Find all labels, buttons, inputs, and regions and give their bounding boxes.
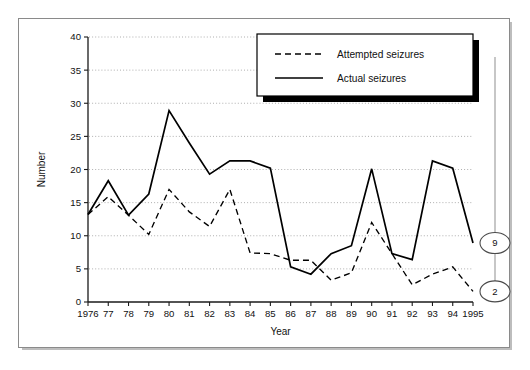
x-tick-label: 84 <box>245 308 256 319</box>
x-tick-label: 91 <box>387 308 398 319</box>
chart-svg: 0510152025303540 19767778798081828384858… <box>19 19 511 349</box>
x-tick-label: 1995 <box>462 308 483 319</box>
x-tick-label: 86 <box>285 308 296 319</box>
x-tick-label: 89 <box>346 308 357 319</box>
y-tick-label: 35 <box>70 65 81 76</box>
x-tick-label: 93 <box>427 308 438 319</box>
x-tick-label: 77 <box>103 308 114 319</box>
chart-plot-area: 0510152025303540 19767778798081828384858… <box>19 19 511 349</box>
x-tick-label: 80 <box>164 308 175 319</box>
x-tick-label: 87 <box>306 308 317 319</box>
legend-box <box>257 34 473 96</box>
y-tick-label: 5 <box>76 263 81 274</box>
figure-frame: 0510152025303540 19767778798081828384858… <box>18 18 510 348</box>
x-tick-label: 1976 <box>77 308 98 319</box>
y-tick-label: 0 <box>76 296 81 307</box>
callout-value: 2 <box>492 286 497 297</box>
y-tick-label: 15 <box>70 197 81 208</box>
x-tick-label: 85 <box>265 308 276 319</box>
x-tick-label: 81 <box>184 308 195 319</box>
y-axis-ticks-group: 0510152025303540 <box>70 31 88 307</box>
x-tick-label: 83 <box>225 308 236 319</box>
callout-value: 9 <box>492 237 497 248</box>
x-tick-label: 92 <box>407 308 418 319</box>
y-tick-label: 30 <box>70 98 81 109</box>
x-tick-label: 82 <box>204 308 215 319</box>
x-axis-title: Year <box>270 326 291 337</box>
legend-label-attempted: Attempted seizures <box>337 49 424 60</box>
x-tick-label: 94 <box>447 308 458 319</box>
x-axis-ticks-group: 1976777879808182838485868788899091929394… <box>77 302 483 319</box>
y-axis-title: Number <box>36 151 47 187</box>
y-tick-label: 20 <box>70 164 81 175</box>
legend-label-actual: Actual seizures <box>337 73 406 84</box>
x-tick-label: 88 <box>326 308 337 319</box>
y-tick-label: 10 <box>70 230 81 241</box>
series-line-actual-seizures <box>88 111 473 275</box>
callout-annotations-group: 92 <box>480 57 510 302</box>
series-line-attempted-seizures <box>88 189 473 291</box>
y-tick-label: 25 <box>70 131 81 142</box>
x-tick-label: 78 <box>123 308 134 319</box>
legend: Attempted seizures Actual seizures <box>257 34 479 102</box>
x-tick-label: 79 <box>143 308 154 319</box>
y-tick-label: 40 <box>70 31 81 42</box>
x-tick-label: 90 <box>366 308 377 319</box>
